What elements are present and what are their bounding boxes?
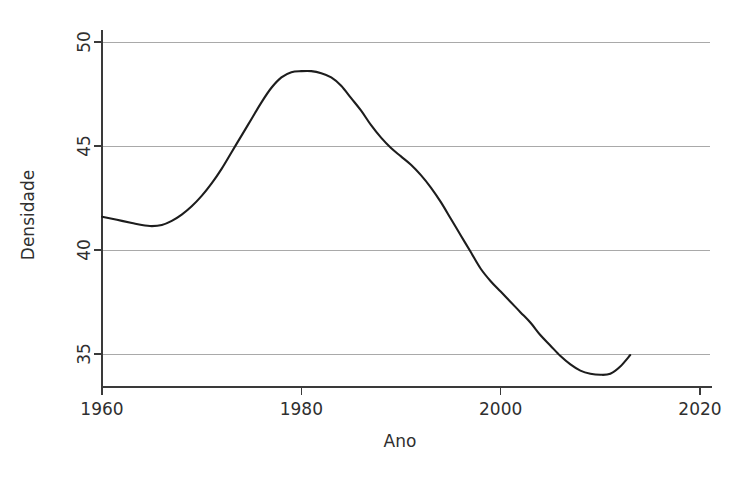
series-group bbox=[102, 71, 630, 375]
x-axis-ticks-group: 1960198020002020 bbox=[80, 387, 721, 419]
gridlines-group bbox=[102, 42, 710, 354]
axes-group bbox=[102, 30, 712, 387]
series-line-densidade bbox=[102, 71, 630, 375]
x-tick-label-2000: 2000 bbox=[479, 399, 522, 419]
x-axis-title: Ano bbox=[384, 431, 417, 451]
x-tick-label-1960: 1960 bbox=[80, 399, 123, 419]
y-tick-label-50: 50 bbox=[74, 31, 94, 53]
x-tick-label-2020: 2020 bbox=[678, 399, 721, 419]
chart-container: 35404550 1960198020002020 Densidade Ano bbox=[0, 0, 752, 477]
x-tick-label-1980: 1980 bbox=[280, 399, 323, 419]
line-chart: 35404550 1960198020002020 Densidade Ano bbox=[0, 0, 752, 477]
y-tick-label-40: 40 bbox=[74, 239, 94, 261]
y-axis-title: Densidade bbox=[18, 170, 38, 260]
y-axis-ticks-group: 35404550 bbox=[74, 31, 102, 365]
y-tick-label-45: 45 bbox=[74, 135, 94, 157]
y-tick-label-35: 35 bbox=[74, 343, 94, 365]
